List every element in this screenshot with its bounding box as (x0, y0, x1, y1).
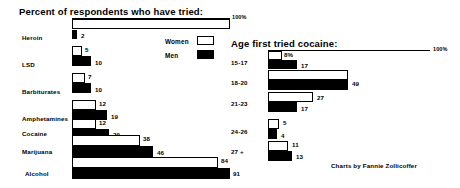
bar-18-20-women (268, 70, 348, 80)
bar-15-17-men (268, 60, 297, 69)
value-barbiturates-women: 7 (88, 73, 92, 80)
row-label-24-26: 24-26 (231, 128, 248, 135)
row-label-21-23: 21-23 (231, 100, 248, 107)
row-label-18-20: 18-20 (231, 79, 248, 86)
legend-swatch-men (197, 50, 214, 59)
legend-label-men: Men (165, 52, 178, 59)
value-15-17-women: 8% (284, 51, 293, 58)
row-label-lsd: LSD (22, 61, 35, 68)
bar-amphetamines-women (72, 100, 96, 110)
value-15-17-men: 17 (301, 62, 308, 69)
bar-barbiturates-men (72, 83, 91, 93)
bar-27-plus-women (268, 141, 288, 151)
row-label-amphetamines: Amphetamines (22, 115, 68, 122)
bar-heroin-women (72, 19, 230, 29)
value-27-plus-men: 13 (296, 153, 303, 160)
row-label-cocaine: Cocaine (22, 130, 47, 137)
bar-27-plus-men (268, 151, 292, 161)
credit-line: Charts by Fannie Zollicoffer (331, 162, 417, 169)
chart-title-age-first-cocaine: Age first tried cocaine: (231, 38, 338, 49)
bar-21-23-men (268, 102, 297, 112)
legend-label-women: Women (165, 38, 189, 45)
scale-label-left: 100% (232, 14, 246, 20)
row-label-marijuana: Marijuana (22, 148, 52, 155)
value-27-plus-women: 11 (292, 141, 299, 148)
value-21-23-women: 27 (317, 94, 324, 101)
scale-label-right: 100% (433, 46, 447, 52)
legend-swatch-women (197, 36, 214, 45)
bar-18-20-men (268, 80, 348, 90)
value-heroin-men: 2 (81, 32, 85, 39)
value-lsd-men: 10 (95, 59, 102, 66)
bar-lsd-men (72, 56, 91, 66)
bar-21-23-women (268, 92, 313, 102)
bar-marijuana-men (72, 146, 153, 157)
value-amphetamines-men: 19 (111, 113, 118, 120)
value-24-26-men: 4 (281, 132, 285, 139)
value-18-20-men: 49 (352, 80, 359, 87)
value-cocaine-women: 12 (99, 119, 106, 126)
bar-24-26-women (268, 119, 279, 129)
bar-alcohol-women (72, 157, 218, 168)
bar-lsd-women (72, 46, 82, 56)
value-marijuana-men: 46 (157, 149, 164, 156)
row-label-heroin: Heroin (22, 34, 43, 41)
bar-24-26-men (268, 129, 277, 139)
bar-marijuana-women (72, 135, 140, 146)
value-21-23-men: 17 (301, 105, 308, 112)
chart-page: Percent of respondents who have tried: 1… (0, 0, 460, 188)
bar-heroin-men (72, 30, 77, 39)
value-alcohol-men: 91 (233, 170, 240, 177)
row-label-27-plus: 27 + (231, 148, 244, 155)
bar-barbiturates-women (72, 73, 85, 83)
value-lsd-women: 5 (85, 46, 89, 53)
bar-cocaine-women (72, 119, 96, 129)
chart-title-percent-tried: Percent of respondents who have tried: (19, 6, 203, 17)
value-alcohol-women: 84 (221, 157, 228, 164)
bar-alcohol-men (72, 168, 230, 179)
bar-15-17-women (268, 51, 282, 60)
value-24-26-women: 5 (283, 119, 287, 126)
row-label-alcohol: Alcohol (25, 170, 49, 177)
value-marijuana-women: 38 (143, 135, 150, 142)
row-label-15-17: 15-17 (231, 59, 248, 66)
value-amphetamines-women: 12 (99, 100, 106, 107)
value-barbiturates-men: 10 (95, 86, 102, 93)
row-label-barbiturates: Barbiturates (22, 88, 60, 95)
